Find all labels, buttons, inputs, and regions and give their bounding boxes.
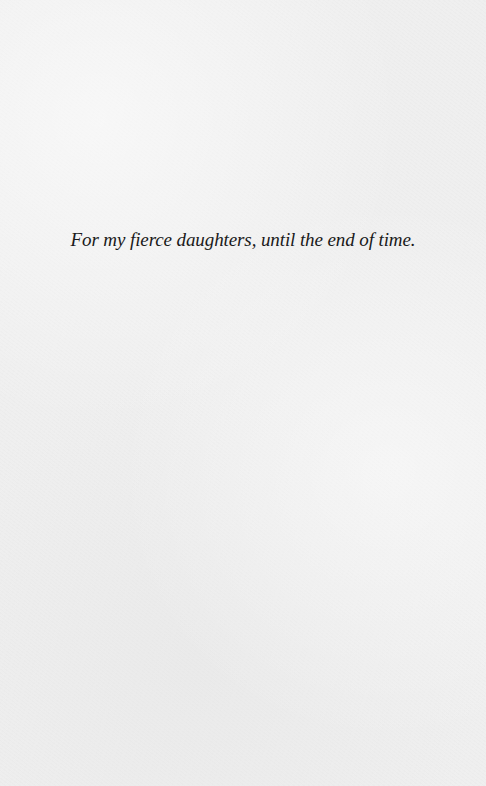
book-page: For my fierce daughters, until the end o… bbox=[0, 0, 486, 786]
dedication-block: For my fierce daughters, until the end o… bbox=[0, 228, 486, 252]
dedication-text: For my fierce daughters, until the end o… bbox=[71, 229, 416, 250]
